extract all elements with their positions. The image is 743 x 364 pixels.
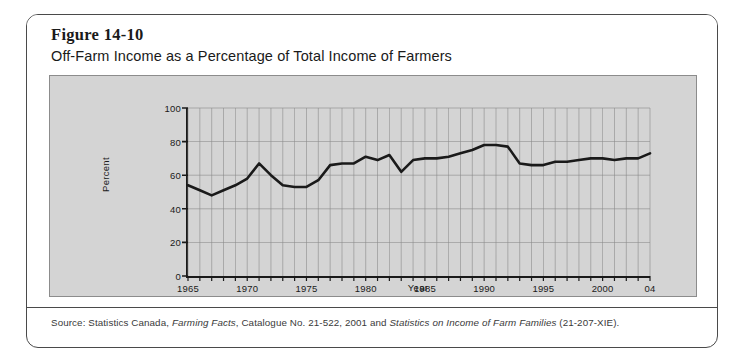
figure-title-band: Figure 14-10 Off-Farm Income as a Percen… — [27, 15, 717, 73]
source-note: Source: Statistics Canada, Farming Facts… — [51, 317, 691, 328]
figure-number: Figure 14-10 — [51, 24, 717, 46]
figure-card: Figure 14-10 Off-Farm Income as a Percen… — [26, 14, 718, 348]
y-tick-label: 0 — [176, 271, 181, 282]
source-publication-1: Farming Facts — [172, 317, 236, 328]
y-axis-title: Percent — [100, 157, 111, 192]
chart-line-series — [188, 108, 650, 276]
y-tick-label: 20 — [170, 237, 181, 248]
source-publication-2: Statistics on Income of Farm Families — [389, 317, 556, 328]
x-axis-title: Year — [186, 282, 650, 293]
y-tick-label: 40 — [170, 203, 181, 214]
chart-panel: Percent 02040608010019651970197519801985… — [49, 75, 697, 297]
source-suffix: (21-207-XIE). — [556, 317, 619, 328]
page-title: Off-Farm Income as a Percentage of Total… — [51, 46, 717, 67]
y-tick-label: 60 — [170, 170, 181, 181]
y-tick-label: 100 — [165, 103, 181, 114]
source-divider — [27, 307, 717, 308]
source-middle: , Catalogue No. 21-522, 2001 and — [236, 317, 390, 328]
plot-area: 0204060801001965197019751980198519901995… — [186, 108, 650, 278]
y-tick-label: 80 — [170, 136, 181, 147]
source-prefix: Source: Statistics Canada, — [51, 317, 172, 328]
